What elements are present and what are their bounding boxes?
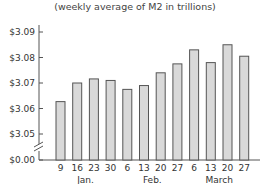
x-tick-label: 6 (191, 163, 197, 173)
y-tick-label: $3.06 (9, 104, 35, 114)
bar (89, 79, 98, 160)
month-label: Feb. (143, 175, 162, 184)
bar (156, 73, 165, 160)
y-tick-label: $3.07 (9, 78, 35, 88)
y-tick-label: $3.09 (9, 27, 35, 37)
x-tick-label: 27 (172, 163, 183, 173)
bar (73, 83, 82, 160)
y-tick-label: $0.00 (9, 155, 35, 165)
bar-chart: $0.00$3.05$3.06$3.07$3.08$3.099162330613… (0, 0, 270, 184)
x-tick-label: 16 (71, 163, 83, 173)
x-tick-label: 9 (58, 163, 64, 173)
bar (123, 89, 132, 160)
x-tick-label: 20 (222, 163, 234, 173)
bar (190, 50, 199, 160)
x-tick-label: 13 (205, 163, 216, 173)
x-tick-label: 20 (155, 163, 167, 173)
bar (56, 102, 65, 160)
bar (206, 63, 215, 160)
y-tick-label: $3.08 (9, 53, 35, 63)
x-tick-label: 6 (124, 163, 130, 173)
bar (173, 64, 182, 160)
x-tick-label: 13 (138, 163, 149, 173)
bar (240, 56, 249, 160)
month-label: March (205, 175, 232, 184)
x-tick-label: 27 (238, 163, 249, 173)
y-tick-label: $3.05 (9, 129, 35, 139)
bar (140, 86, 149, 160)
month-label: Jan. (76, 175, 94, 184)
x-tick-label: 30 (105, 163, 117, 173)
x-tick-label: 23 (88, 163, 99, 173)
bar (223, 45, 232, 160)
bar (106, 80, 115, 160)
